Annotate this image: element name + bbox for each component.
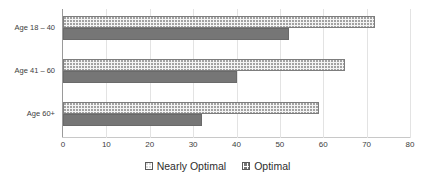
bar-optimal xyxy=(63,114,202,126)
value-axis-tick-label: 0 xyxy=(61,140,65,149)
value-axis-ticks: 01020304050607080 xyxy=(63,140,410,154)
category-axis: Age 18 – 40 Age 41 – 60 Age 60+ xyxy=(0,9,63,138)
optimal-swatch-icon xyxy=(242,162,250,170)
value-axis-tick-label: 10 xyxy=(102,140,111,149)
chart-legend: Nearly Optimal Optimal xyxy=(0,160,435,172)
bar-chart: Age 18 – 40 Age 41 – 60 Age 60+ 01020304… xyxy=(0,0,435,189)
bar-group xyxy=(63,52,410,95)
bar-optimal xyxy=(63,28,289,40)
bar-nearly-optimal xyxy=(63,59,345,71)
bar-group xyxy=(63,95,410,138)
category-label: Age 60+ xyxy=(0,109,55,118)
legend-item-nearly-optimal: Nearly Optimal xyxy=(145,160,226,172)
value-axis-tick-label: 30 xyxy=(189,140,198,149)
category-label: Age 41 – 60 xyxy=(0,66,55,75)
legend-label: Optimal xyxy=(254,160,290,172)
value-axis-tick-label: 80 xyxy=(406,140,415,149)
nearly-optimal-swatch-icon xyxy=(145,162,153,170)
value-axis-tick-label: 20 xyxy=(145,140,154,149)
bar-nearly-optimal xyxy=(63,102,319,114)
gridline xyxy=(410,9,411,138)
legend-item-optimal: Optimal xyxy=(242,160,290,172)
value-axis-tick-label: 60 xyxy=(319,140,328,149)
plot-area xyxy=(63,9,410,138)
bar-nearly-optimal xyxy=(63,16,375,28)
value-axis-tick-label: 50 xyxy=(275,140,284,149)
legend-label: Nearly Optimal xyxy=(157,160,226,172)
bar-group xyxy=(63,9,410,52)
value-axis-tick-label: 40 xyxy=(232,140,241,149)
bar-optimal xyxy=(63,71,237,83)
value-axis-tick-label: 70 xyxy=(362,140,371,149)
category-label: Age 18 – 40 xyxy=(0,23,55,32)
